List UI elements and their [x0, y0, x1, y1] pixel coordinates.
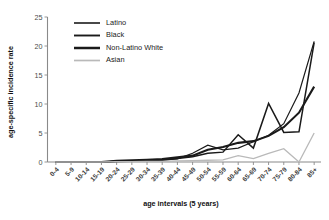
y-axis-title: age-specific incidence rate — [6, 46, 15, 138]
x-axis-tick-label: 75-79 — [271, 166, 288, 183]
incidence-rate-line-chart: 0510152025 0-45-910-1415-1920-2425-2930-… — [0, 0, 329, 220]
series-line-latino — [56, 41, 314, 162]
x-axis-tick-label: 25-29 — [119, 166, 136, 183]
x-axis-tick-label: 65-69 — [241, 166, 258, 183]
legend-label-asian: Asian — [106, 55, 125, 64]
data-series-group — [56, 41, 314, 162]
legend-label-black: Black — [106, 30, 124, 39]
y-axis-tick-label: 20 — [35, 42, 43, 51]
x-axis-tick-label: 60-64 — [226, 166, 243, 183]
x-axis-tick-label: 35-39 — [150, 166, 167, 183]
chart-legend: LatinoBlackNon-Latino WhiteAsian — [74, 18, 163, 65]
y-axis: 0510152025 — [35, 13, 48, 167]
x-axis-tick-label: 30-34 — [134, 166, 151, 183]
y-axis-tick-label: 5 — [39, 129, 43, 138]
x-axis-ticks: 0-45-910-1415-1920-2425-2930-3435-3940-4… — [48, 162, 318, 183]
x-axis-title: age intervals (5 years) — [143, 199, 219, 208]
legend-label-latino: Latino — [106, 18, 126, 27]
x-axis-tick-label: 80-84 — [286, 166, 303, 183]
x-axis-tick-label: 45-49 — [180, 166, 197, 183]
x-axis: 0-45-910-1415-1920-2425-2930-3435-3940-4… — [48, 162, 322, 183]
y-axis-tick-label: 0 — [39, 158, 43, 167]
legend-label-non-latino-white: Non-Latino White — [106, 43, 163, 52]
x-axis-tick-label: 85+ — [306, 166, 319, 179]
y-axis-tick-label: 15 — [35, 71, 43, 80]
x-axis-tick-label: 50-54 — [195, 166, 212, 183]
x-axis-tick-label: 5-9 — [64, 166, 76, 178]
chart-container: 0510152025 0-45-910-1415-1920-2425-2930-… — [0, 0, 329, 220]
x-axis-tick-label: 10-14 — [74, 166, 91, 183]
x-axis-tick-label: 20-24 — [104, 166, 121, 183]
x-axis-tick-label: 70-74 — [256, 166, 273, 183]
x-axis-tick-label: 0-4 — [48, 166, 60, 178]
y-axis-tick-label: 10 — [35, 100, 43, 109]
x-axis-tick-label: 15-19 — [89, 166, 106, 183]
y-axis-tick-label: 25 — [35, 13, 43, 22]
x-axis-tick-label: 40-44 — [165, 166, 182, 183]
y-axis-ticks: 0510152025 — [35, 13, 48, 167]
x-axis-tick-label: 55-59 — [210, 166, 227, 183]
